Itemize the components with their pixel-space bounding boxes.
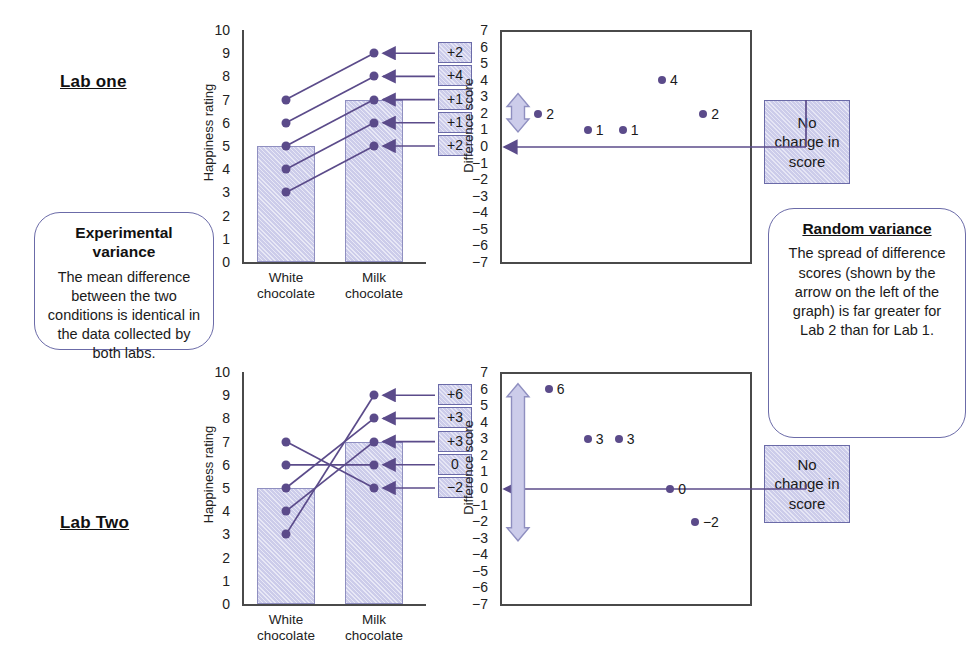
data-point [282, 188, 291, 197]
lab-two-scatter-chart: Difference score 76543210−1−2−3−4−5−6−7 [452, 372, 752, 612]
scatter-point [615, 435, 623, 443]
callout-random-body: The spread of difference scores (shown b… [781, 244, 953, 340]
axis-tick: 0 [222, 597, 230, 611]
y-axis-ticks-b: 109876543210 [204, 372, 230, 604]
scatter-point [584, 435, 592, 443]
category-label-milk-a: Milk chocolate [336, 270, 412, 301]
scatter-frame-a [500, 30, 752, 264]
axis-tick: 8 [222, 411, 230, 425]
lab-one-bar-chart: Happiness rating 109876543210 White choc… [196, 30, 426, 270]
figure-canvas: Lab one Lab Two Happiness rating 1098765… [0, 0, 980, 647]
axis-tick: 4 [480, 415, 488, 429]
axis-tick: 2 [222, 209, 230, 223]
data-point [282, 507, 291, 516]
data-point [282, 142, 291, 151]
axis-tick: 3 [480, 89, 488, 103]
category-label-white-a: White chocolate [248, 270, 324, 301]
scatter-point-label: 1 [596, 122, 604, 138]
callout-random-variance: Random variance The spread of difference… [768, 208, 966, 438]
data-point [282, 437, 291, 446]
data-point [370, 49, 379, 58]
scatter-y-ticks-a: 76543210−1−2−3−4−5−6−7 [462, 30, 488, 262]
scatter-point [666, 485, 674, 493]
scatter-point [658, 76, 666, 84]
axis-tick: −2 [472, 172, 488, 186]
axis-tick: 10 [214, 23, 230, 37]
scatter-point [545, 385, 553, 393]
scatter-point-label: 2 [546, 106, 554, 122]
callout-experimental-body: The mean difference between the two cond… [47, 268, 201, 364]
axis-tick: 9 [222, 388, 230, 402]
axis-tick: −7 [472, 597, 488, 611]
axis-tick: −1 [472, 156, 488, 170]
no-change-box-bottom: No change in score [764, 445, 850, 523]
scatter-point-label: 4 [670, 72, 678, 88]
bar-white-chocolate-b [257, 488, 315, 604]
axis-tick: 6 [480, 382, 488, 396]
data-point [282, 165, 291, 174]
axis-tick: 0 [480, 481, 488, 495]
axis-tick: 1 [222, 574, 230, 588]
axis-tick: 8 [222, 69, 230, 83]
axis-tick: −3 [472, 189, 488, 203]
data-point [370, 72, 379, 81]
axis-tick: 2 [480, 106, 488, 120]
y-axis-line-b [242, 372, 244, 606]
callout-experimental-title: Experimental variance [47, 223, 201, 262]
data-point [370, 484, 379, 493]
axis-tick: 5 [222, 481, 230, 495]
scatter-point [534, 110, 542, 118]
axis-tick: −3 [472, 531, 488, 545]
data-point [370, 437, 379, 446]
axis-tick: −4 [472, 205, 488, 219]
callout-experimental-variance: Experimental variance The mean differenc… [34, 212, 214, 350]
scatter-point [699, 110, 707, 118]
bar-white-chocolate-a [257, 146, 315, 262]
axis-tick: 2 [480, 448, 488, 462]
data-point [370, 118, 379, 127]
axis-tick: 6 [222, 116, 230, 130]
scatter-point [619, 126, 627, 134]
callout-random-title: Random variance [781, 219, 953, 238]
scatter-point [584, 126, 592, 134]
axis-tick: 4 [222, 162, 230, 176]
axis-tick: −7 [472, 255, 488, 269]
data-point [370, 142, 379, 151]
data-point [370, 414, 379, 423]
axis-tick: 1 [222, 232, 230, 246]
data-point [282, 484, 291, 493]
axis-tick: 9 [222, 46, 230, 60]
axis-tick: 4 [222, 504, 230, 518]
scatter-point-label: 6 [557, 381, 565, 397]
axis-tick: 7 [222, 93, 230, 107]
data-point [370, 95, 379, 104]
data-point [282, 530, 291, 539]
category-label-milk-b: Milk chocolate [336, 612, 412, 643]
y-axis-line-a [242, 30, 244, 264]
axis-tick: −4 [472, 547, 488, 561]
axis-tick: 1 [480, 122, 488, 136]
no-change-box-top: No change in score [764, 100, 850, 184]
scatter-y-ticks-b: 76543210−1−2−3−4−5−6−7 [462, 372, 488, 604]
axis-tick: 2 [222, 551, 230, 565]
axis-tick: −6 [472, 580, 488, 594]
axis-tick: 3 [480, 431, 488, 445]
scatter-point-label: 2 [711, 106, 719, 122]
scatter-point-label: 0 [678, 481, 686, 497]
axis-tick: −5 [472, 222, 488, 236]
lab-one-scatter-chart: Difference score 76543210−1−2−3−4−5−6−7 [452, 30, 752, 270]
x-axis-line-b [242, 604, 426, 606]
scatter-frame-b [500, 372, 752, 606]
axis-tick: −6 [472, 238, 488, 252]
axis-tick: −2 [472, 514, 488, 528]
lab-two-bar-chart: Happiness rating 109876543210 White choc… [196, 372, 426, 612]
axis-tick: 10 [214, 365, 230, 379]
axis-tick: 5 [480, 56, 488, 70]
data-point [282, 95, 291, 104]
scatter-point-label: 3 [627, 431, 635, 447]
lab-one-title: Lab one [60, 72, 127, 92]
axis-tick: 6 [222, 458, 230, 472]
axis-tick: 7 [480, 365, 488, 379]
scatter-point-label: 3 [596, 431, 604, 447]
axis-tick: 5 [480, 398, 488, 412]
